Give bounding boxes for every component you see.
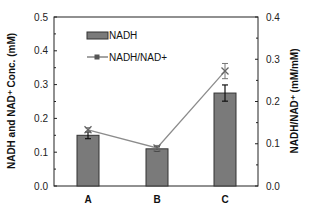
category-label: A [84,194,91,205]
bar-C [214,93,236,186]
left-tick-label: 0.1 [34,147,48,158]
left-tick-label: 0.3 [34,79,48,90]
right-tick-label: 0.0 [266,181,280,192]
right-axis-ticks: 0.00.10.20.30.4 [255,12,280,192]
chart: 0.00.10.20.30.40.5 0.00.10.20.30.4 ABC N… [0,0,311,213]
left-tick-label: 0.4 [34,45,48,56]
right-tick-label: 0.4 [266,12,280,23]
category-label: B [153,194,160,205]
bar-A [77,135,99,186]
ratio-polyline [88,71,225,148]
bar-B [146,149,168,186]
right-axis-label: NADH/NAD⁺ (mM/mM) [289,49,300,154]
category-labels: ABC [84,194,228,205]
left-axis-label: NADH and NAD⁺ Conc. (mM) [6,33,17,169]
left-tick-label: 0.0 [34,181,48,192]
legend-label-ratio: NADH/NAD+ [109,52,167,63]
right-tick-label: 0.3 [266,54,280,65]
legend-label-nadh: NADH [109,30,137,41]
category-label: C [221,194,228,205]
legend: NADHNADH/NAD+ [87,30,167,63]
ratio-line [85,63,229,151]
legend-swatch-nadh [87,32,108,39]
left-tick-label: 0.5 [34,12,48,23]
right-tick-label: 0.1 [266,138,280,149]
right-tick-label: 0.2 [266,96,280,107]
nadh-bars [77,85,236,186]
left-tick-label: 0.2 [34,113,48,124]
